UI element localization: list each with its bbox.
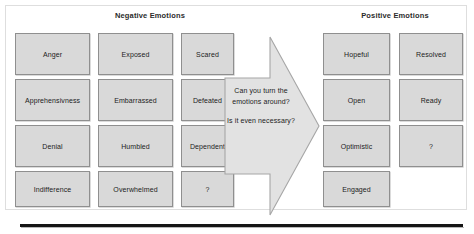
emotion-box-resolved[interactable]: Resolved [399,33,463,75]
emotion-box-indifference[interactable]: Indifference [15,171,90,207]
emotion-box-anger[interactable]: Anger [15,33,90,75]
arrow-question-text: Can you turn the emotions around? Is it … [227,86,295,127]
emotion-box-humbled[interactable]: Humbled [98,125,173,167]
emotion-box-denial[interactable]: Denial [15,125,90,167]
positive-emotions-title: Positive Emotions [310,11,474,21]
emotion-box-hopeful[interactable]: Hopeful [323,33,390,75]
emotion-box-embarrassed[interactable]: Embarrassed [98,79,173,121]
emotion-box-engaged[interactable]: Engaged [323,171,390,207]
bottom-divider-shadow [21,227,464,228]
arrow-question-secondary: Is it even necessary? [227,116,295,127]
arrow-question-primary: Can you turn the emotions around? [232,87,290,105]
emotion-box-open[interactable]: Open [323,79,390,121]
emotion-box-overwhelmed[interactable]: Overwhelmed [98,171,173,207]
emotion-box-apprehensivness[interactable]: Apprehensivness [15,79,90,121]
emotion-box-optimistic[interactable]: Optimistic [323,125,390,167]
slide-canvas: Negative Emotions Positive Emotions Ange… [0,0,474,234]
emotion-box-exposed[interactable]: Exposed [98,33,173,75]
emotion-box-unknown-positive[interactable]: ? [399,125,463,167]
emotion-box-ready[interactable]: Ready [399,79,463,121]
negative-emotions-title: Negative Emotions [60,11,240,21]
